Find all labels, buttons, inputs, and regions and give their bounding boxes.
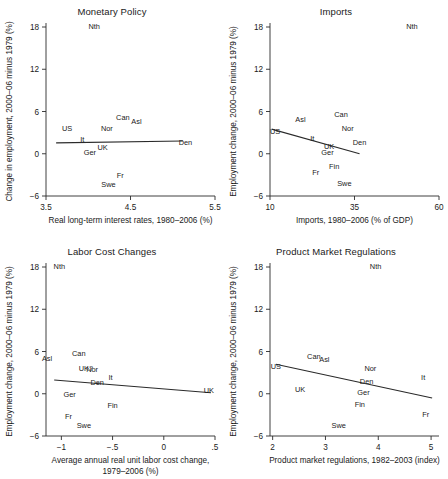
data-point-label: Fr — [312, 168, 320, 177]
data-point-label: It — [80, 135, 84, 144]
data-point-label: Asl — [131, 117, 142, 126]
data-point-label: Den — [90, 378, 104, 387]
x-tick-label: 4 — [376, 443, 381, 452]
data-point-label: UK — [295, 385, 305, 394]
data-point-label: Nor — [86, 365, 98, 374]
panel-plot-2: 181260−6−1−.50.5NthCanAslUK?NorItDenUKGe… — [0, 240, 224, 479]
data-point-label: Den — [353, 138, 367, 147]
panel-plot-0: 181260−63.54.55.5NthCanAslUSNorItUKDenGe… — [0, 0, 224, 239]
data-point-label: Can — [116, 113, 130, 122]
y-tick-label: 6 — [258, 348, 263, 357]
data-point-label: Nor — [101, 124, 113, 133]
data-point-label: Swe — [77, 421, 91, 430]
data-point-label: Swe — [337, 179, 351, 188]
x-axis-title: Real long-term interest rates, 1980–2006… — [49, 216, 213, 225]
panel-product-market-regulations: Product Market Regulations 181260−62345N… — [224, 240, 448, 479]
data-point-label: Ger — [321, 148, 334, 157]
y-tick-label: 12 — [30, 65, 40, 74]
data-point-label: Swe — [331, 421, 345, 430]
data-point-label: Can — [334, 110, 348, 119]
y-tick-label: 0 — [34, 150, 39, 159]
data-point-label: Den — [360, 377, 374, 386]
y-axis-title: Employment change, 2000–06 minus 1979 (%… — [229, 266, 238, 437]
y-tick-label: 12 — [254, 65, 264, 74]
y-tick-label: 18 — [30, 23, 40, 32]
y-tick-label: 6 — [34, 348, 39, 357]
y-tick-label: −6 — [254, 432, 264, 441]
data-point-label: US — [271, 362, 281, 371]
y-tick-label: −6 — [30, 192, 40, 201]
y-tick-label: 12 — [254, 305, 264, 314]
y-tick-label: 6 — [34, 108, 39, 117]
x-axis-title: Product market regulations, 1982–2003 (i… — [269, 456, 440, 465]
x-tick-label: .5 — [212, 443, 219, 452]
data-point-label: Nor — [364, 364, 376, 373]
regression-fit-line — [272, 129, 360, 154]
x-axis-title: Imports, 1980–2006 (% of GDP) — [296, 216, 413, 225]
data-point-label: Asl — [295, 115, 306, 124]
y-tick-label: 0 — [258, 390, 263, 399]
regression-fit-line — [54, 380, 211, 393]
y-axis-title: Employment change, 2000–06 minus 1979 (%… — [229, 26, 238, 197]
data-point-label: Fin — [329, 162, 339, 171]
data-point-label: Den — [179, 138, 193, 147]
data-point-label: Fr — [422, 410, 430, 419]
data-point-label: Can — [72, 349, 86, 358]
data-point-label: Nth — [88, 22, 100, 31]
x-axis-title-line2: 1979–2006 (%) — [103, 467, 159, 476]
data-point-label: Fr — [65, 412, 73, 421]
x-tick-label: 5.5 — [209, 203, 221, 212]
y-tick-label: −6 — [30, 432, 40, 441]
x-tick-label: 0 — [162, 443, 167, 452]
data-point-label: Asl — [319, 355, 330, 364]
x-axis-title: Average annual real unit labor cost chan… — [52, 456, 210, 465]
data-point-label: Fin — [107, 401, 117, 410]
panel-labor-cost-changes: Labor Cost Changes 181260−6−1−.50.5NthCa… — [0, 240, 224, 479]
data-point-label: Fr — [117, 171, 125, 180]
x-tick-label: 4.5 — [125, 203, 137, 212]
data-point-label: Nth — [54, 262, 66, 271]
panel-monetary-policy: Monetary Policy 181260−63.54.55.5NthCanA… — [0, 0, 224, 239]
data-point-label: UK — [204, 386, 214, 395]
data-point-label: US — [62, 124, 72, 133]
data-point-label: Ger — [84, 148, 97, 157]
data-point-label: It — [421, 373, 425, 382]
data-point-label: Swe — [101, 180, 115, 189]
y-tick-label: 12 — [30, 305, 40, 314]
data-point-label: It — [310, 134, 314, 143]
y-axis-title: Change in employment, 2000–06 minus 1979… — [5, 21, 14, 202]
data-point-label: Nth — [370, 262, 382, 271]
data-point-label: Fin — [355, 400, 365, 409]
y-axis-title: Employment change, 2000–06 minus 1979 (%… — [5, 266, 14, 437]
x-tick-label: 2 — [270, 443, 275, 452]
panel-imports: Imports 181260−6103560NthCanAslNorUSItDe… — [224, 0, 448, 239]
y-tick-label: 0 — [258, 150, 263, 159]
y-tick-label: 6 — [258, 108, 263, 117]
panel-plot-1: 181260−6103560NthCanAslNorUSItDenUKGerFi… — [224, 0, 448, 239]
x-tick-label: 35 — [350, 203, 360, 212]
x-tick-label: −1 — [57, 443, 67, 452]
data-point-label: Ger — [63, 390, 76, 399]
data-point-label: US — [270, 127, 280, 136]
data-point-label: It — [108, 373, 112, 382]
data-point-label: Nor — [342, 124, 354, 133]
x-tick-label: −.5 — [107, 443, 119, 452]
panel-plot-3: 181260−62345NthCanAslNorUSItDenUKGerFinF… — [224, 240, 448, 479]
y-tick-label: 18 — [30, 263, 40, 272]
x-tick-label: 3.5 — [40, 203, 52, 212]
x-tick-label: 5 — [429, 443, 434, 452]
y-tick-label: 18 — [254, 263, 264, 272]
y-tick-label: 0 — [34, 390, 39, 399]
data-point-label: Asl — [42, 354, 53, 363]
x-tick-label: 10 — [265, 203, 275, 212]
data-point-label: Ger — [357, 388, 370, 397]
x-tick-label: 3 — [323, 443, 328, 452]
x-tick-label: 60 — [434, 203, 444, 212]
y-tick-label: −6 — [254, 192, 264, 201]
scatter-plot-figure: Monetary Policy 181260−63.54.55.5NthCanA… — [0, 0, 448, 479]
y-tick-label: 18 — [254, 23, 264, 32]
regression-fit-line — [56, 141, 183, 143]
data-point-label: UK — [97, 143, 107, 152]
data-point-label: Nth — [406, 22, 418, 31]
